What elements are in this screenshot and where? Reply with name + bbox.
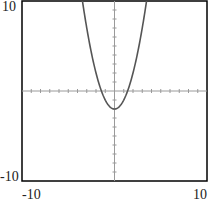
x-min-label: -10 bbox=[22, 188, 41, 202]
x-max-label: 10 bbox=[193, 188, 207, 202]
function-plot bbox=[0, 0, 216, 203]
y-min-label: -10 bbox=[0, 170, 19, 184]
y-max-label: 10 bbox=[2, 0, 16, 14]
